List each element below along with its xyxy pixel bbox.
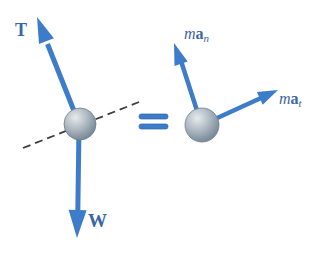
tension-arrowhead-icon xyxy=(37,17,54,44)
ma-n-label: man xyxy=(184,26,209,44)
normal-accel-arrowhead-icon xyxy=(174,43,188,66)
weight-label: W xyxy=(88,211,107,230)
physics-figure: T W man mat xyxy=(0,0,336,262)
weight-arrowhead-icon xyxy=(69,210,87,238)
normal-subscript: n xyxy=(204,32,210,44)
equals-bottom-bar xyxy=(139,124,168,129)
diagram-canvas xyxy=(0,0,336,262)
mass-symbol: m xyxy=(279,90,291,107)
tangential-subscript: t xyxy=(299,97,302,109)
weight-arrow xyxy=(69,127,87,238)
left-ball xyxy=(64,108,96,140)
mass-symbol: m xyxy=(184,25,196,42)
right-ball xyxy=(185,108,219,142)
accel-vector-symbol: a xyxy=(291,90,299,107)
equals-top-bar xyxy=(139,114,168,119)
accel-vector-symbol: a xyxy=(196,25,204,42)
tension-arrow xyxy=(37,17,78,121)
tangential-accel-arrowhead-icon xyxy=(257,90,278,105)
tension-label: T xyxy=(15,21,27,39)
equals-sign xyxy=(139,114,168,129)
ma-t-label: mat xyxy=(279,91,302,109)
